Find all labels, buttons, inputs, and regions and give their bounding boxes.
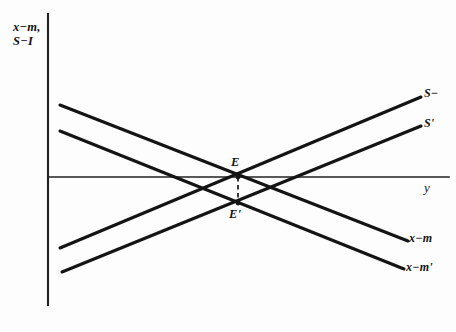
- curve-label-x-minus-m-prime: x−m': [406, 261, 433, 275]
- point-marker-e: [236, 175, 241, 180]
- economics-diagram: x−m,S−I y S− S' x−m x−m' E E': [0, 0, 456, 332]
- curve-label-s-minus-i: S−: [424, 87, 438, 101]
- point-label-e: E: [231, 155, 240, 169]
- curve-x-minus-m-prime: [60, 131, 404, 269]
- curve-s-minus-i-prime: [62, 126, 421, 272]
- point-marker-e-prime: [236, 201, 241, 206]
- curve-label-s-minus-i-prime: S': [424, 117, 434, 131]
- curves-group: [60, 97, 421, 272]
- vertical-axis-label-line2: S−I: [13, 34, 40, 48]
- curve-label-x-minus-m: x−m: [409, 232, 432, 246]
- vertical-axis-label-line1: x−m,: [13, 20, 40, 34]
- diagram-canvas: [0, 0, 456, 332]
- horizontal-axis-label: y: [424, 181, 430, 196]
- vertical-axis-label: x−m,S−I: [13, 20, 40, 49]
- point-label-e-prime: E': [229, 207, 241, 221]
